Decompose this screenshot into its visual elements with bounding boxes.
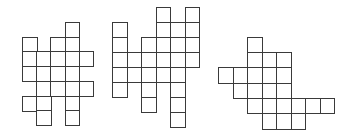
grid-cell [276, 98, 292, 115]
grid-cell [112, 67, 128, 83]
grid-cell [79, 51, 95, 67]
grid-cell [65, 66, 81, 82]
grid-cell [262, 52, 278, 69]
grid-cell [79, 81, 95, 97]
grid-cell [170, 97, 186, 113]
grid-cell [247, 37, 263, 54]
grid-cell [170, 112, 186, 128]
grid-cell [320, 98, 336, 115]
grid-cell [22, 96, 38, 112]
grid-cell [233, 83, 249, 100]
grid-cell [156, 7, 172, 23]
grid-cell [127, 52, 143, 68]
grid-cell [170, 67, 186, 83]
grid-cell [276, 113, 292, 130]
grid-cell [112, 22, 128, 38]
grid-cell [156, 67, 172, 83]
grid-cell [127, 67, 143, 83]
grid-cell [65, 22, 81, 38]
grid-cell [247, 52, 263, 69]
grid-cell [141, 82, 157, 98]
grid-cell [156, 22, 172, 38]
grid-cell [141, 37, 157, 53]
grid-cell [22, 37, 38, 53]
grid-cell [276, 67, 292, 84]
grid-cell [112, 52, 128, 68]
grid-cell [141, 67, 157, 83]
grid-cell [262, 98, 278, 115]
grid-cell [65, 96, 81, 112]
grid-cell [185, 7, 201, 23]
grid-cell [291, 98, 307, 115]
grid-cell [112, 82, 128, 98]
grid-cell [170, 52, 186, 68]
grid-cell [305, 98, 321, 115]
grid-cell [50, 37, 66, 53]
grid-cell [65, 51, 81, 67]
grid-cell [247, 67, 263, 84]
grid-cell [22, 51, 38, 67]
grid-cell [262, 67, 278, 84]
grid-cell [36, 51, 52, 67]
grid-cell [276, 52, 292, 69]
grid-cell [276, 83, 292, 100]
grid-cell [36, 66, 52, 82]
grid-cell [247, 83, 263, 100]
grid-cell [185, 37, 201, 53]
grid-cell [218, 67, 234, 84]
grid-cell [50, 66, 66, 82]
grid-cell [141, 52, 157, 68]
grid-cell [36, 96, 52, 112]
grid-cell [170, 37, 186, 53]
grid-cell [233, 67, 249, 84]
grid-cell [262, 83, 278, 100]
grid-cell [262, 113, 278, 130]
grid-cell [36, 81, 52, 97]
grid-cell [185, 22, 201, 38]
grid-cell [65, 81, 81, 97]
grid-cell [65, 110, 81, 126]
grid-cell [185, 52, 201, 68]
grid-cell [50, 81, 66, 97]
grid-cell [156, 37, 172, 53]
grid-cell [247, 98, 263, 115]
grid-cell [170, 22, 186, 38]
grid-cell [170, 82, 186, 98]
grid-cell [291, 113, 307, 130]
grid-cell [22, 66, 38, 82]
grid-cell [65, 37, 81, 53]
grid-cell [141, 97, 157, 113]
grid-cell [50, 51, 66, 67]
grid-cell [112, 37, 128, 53]
grid-cell [156, 52, 172, 68]
grid-cell [36, 110, 52, 126]
